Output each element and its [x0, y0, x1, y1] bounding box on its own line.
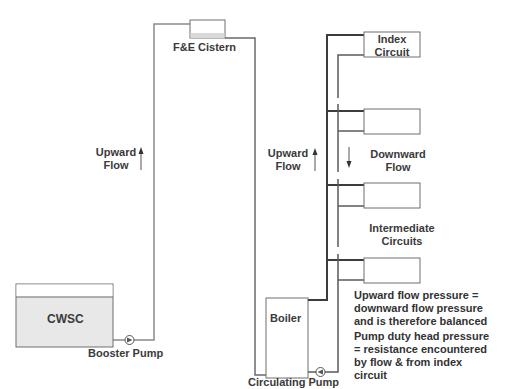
intermediate-line1: Intermediate	[362, 222, 442, 235]
balance-note: Upward flow pressure = downward flow pre…	[354, 289, 487, 328]
left-upward-arrow	[139, 147, 144, 170]
pump-duty-line3: by flow & from index	[354, 356, 489, 369]
radiator-4	[364, 258, 420, 283]
right-upward-flow-label: Upward Flow	[264, 147, 312, 173]
left-upward-flow-line2: Flow	[93, 159, 139, 172]
cold-feed-pipe	[113, 24, 190, 340]
boiler-label: Boiler	[270, 312, 301, 325]
index-circuit-line1: Index	[364, 33, 420, 46]
pump-duty-note: Pump duty head pressure = resistance enc…	[354, 330, 489, 382]
downward-arrow	[347, 147, 352, 168]
balance-note-line3: and is therefore balanced	[354, 315, 487, 328]
left-upward-flow-label: Upward Flow	[93, 146, 139, 172]
booster-pump-icon	[125, 336, 134, 345]
pump-duty-line1: Pump duty head pressure	[354, 330, 489, 343]
balance-note-line1: Upward flow pressure =	[354, 289, 487, 302]
left-upward-flow-line1: Upward	[93, 146, 139, 159]
right-upward-arrow	[313, 148, 318, 171]
cistern-feed-pipe	[225, 38, 266, 375]
boiler	[266, 298, 308, 378]
pump-duty-line2: = resistance encountered	[354, 343, 489, 356]
cistern-label: F&E Cistern	[173, 41, 236, 54]
radiator-2	[364, 109, 420, 134]
radiator-3	[364, 183, 420, 208]
index-circuit-line2: Circuit	[364, 46, 420, 59]
downward-flow-label: Downward Flow	[365, 148, 431, 174]
right-upward-flow-line2: Flow	[264, 160, 312, 173]
fe-cistern	[190, 20, 225, 38]
pump-duty-line4: circuit	[354, 369, 489, 382]
downward-flow-line1: Downward	[365, 148, 431, 161]
booster-pump-label: Booster Pump	[88, 347, 163, 360]
balance-note-line2: downward flow pressure	[354, 302, 487, 315]
downward-flow-line2: Flow	[365, 161, 431, 174]
index-circuit-label: Index Circuit	[364, 33, 420, 59]
flow-riser-pipe	[308, 35, 364, 300]
circulating-pump-label: Circulating Pump	[248, 376, 339, 389]
intermediate-line2: Circuits	[362, 235, 442, 248]
intermediate-circuits-label: Intermediate Circuits	[362, 222, 442, 248]
cwsc-label: CWSC	[47, 313, 84, 326]
right-upward-flow-line1: Upward	[264, 147, 312, 160]
